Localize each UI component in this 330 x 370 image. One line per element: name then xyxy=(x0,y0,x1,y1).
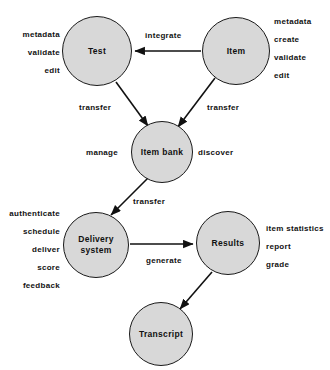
annotation-item: schedule xyxy=(23,227,60,236)
annotation-item: edit xyxy=(274,71,289,80)
node-delivery-system[interactable]: Delivery system xyxy=(63,212,129,278)
node-transcript[interactable]: Transcript xyxy=(129,302,193,366)
node-results-label: Results xyxy=(212,238,245,249)
annotation-item: edit xyxy=(45,66,60,75)
node-item-bank-label: Item bank xyxy=(141,147,183,158)
edge-label-generate: generate xyxy=(146,256,182,265)
annotation-item: grade xyxy=(266,260,289,269)
annotation-item: metadata xyxy=(22,30,60,39)
node-item-label: Item xyxy=(227,46,246,57)
annotation-group-test-operations: metadata validate edit xyxy=(4,30,60,84)
annotation-item: authenticate xyxy=(9,209,60,218)
annotation-group-item-operations: metadata create validate edit xyxy=(274,17,328,89)
annotation-group-results-operations: item statistics report grade xyxy=(266,224,328,278)
edge-label-item-transfer: transfer xyxy=(207,103,239,112)
annotation-item: validate xyxy=(28,48,60,57)
annotation-item: report xyxy=(266,242,291,251)
node-delivery-system-label: Delivery system xyxy=(78,234,113,255)
edge-label-test-transfer: transfer xyxy=(79,103,111,112)
node-item[interactable]: Item xyxy=(202,17,270,85)
edge-label-integrate: integrate xyxy=(145,31,182,40)
node-item-bank[interactable]: Item bank xyxy=(131,121,193,183)
node-transcript-label: Transcript xyxy=(139,329,183,340)
node-test-label: Test xyxy=(88,46,106,57)
node-results[interactable]: Results xyxy=(196,211,260,275)
edge-test-to-item-bank xyxy=(116,82,148,126)
annotation-item: validate xyxy=(274,53,306,62)
node-test[interactable]: Test xyxy=(62,16,132,86)
annotation-group-delivery-system-operations: authenticate schedule deliver score feed… xyxy=(0,209,60,299)
annotation-item: metadata xyxy=(274,17,312,26)
diagram-canvas: Test Item Item bank Delivery system Resu… xyxy=(0,0,330,370)
node-side-label-manage: manage xyxy=(86,148,118,157)
annotation-item: item statistics xyxy=(266,224,324,233)
annotation-item: feedback xyxy=(23,281,60,290)
annotation-item: create xyxy=(274,35,299,44)
edge-label-item-bank-transfer: transfer xyxy=(133,197,165,206)
annotation-item: score xyxy=(37,263,60,272)
annotation-item: deliver xyxy=(32,245,60,254)
node-side-label-discover: discover xyxy=(198,148,233,157)
edge-results-to-transcript xyxy=(180,272,212,309)
